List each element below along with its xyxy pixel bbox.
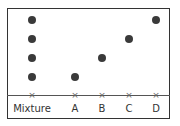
lane-label: D (136, 103, 176, 114)
origin-cross-icon: × (151, 91, 161, 100)
spot (28, 16, 36, 24)
origin-cross-icon: × (70, 91, 80, 100)
spot (28, 73, 36, 81)
spot (125, 35, 133, 43)
spot (98, 54, 106, 62)
spot (28, 35, 36, 43)
lane-label: Mixture (12, 103, 52, 114)
origin-cross-icon: × (27, 91, 37, 100)
origin-cross-icon: × (97, 91, 107, 100)
origin-cross-icon: × (124, 91, 134, 100)
spot (71, 73, 79, 81)
spot (152, 16, 160, 24)
spot (28, 54, 36, 62)
